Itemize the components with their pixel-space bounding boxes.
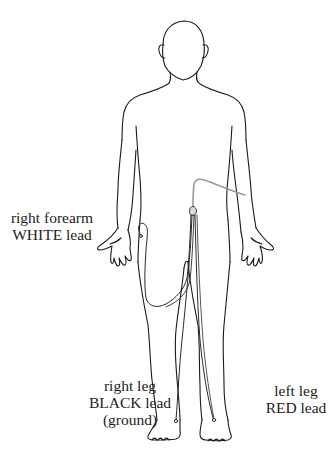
main-cable [193, 179, 245, 207]
right-arm-outer [117, 140, 122, 228]
right-arm-inner [128, 150, 136, 230]
neck-shoulder-left [196, 72, 246, 140]
label-right-leg-line3: (ground) [80, 411, 180, 428]
lead-wire-white-inner [166, 215, 194, 307]
label-left-leg-line1: left leg [258, 382, 334, 399]
label-left-leg-line2: RED lead [258, 399, 334, 416]
right-hand [98, 228, 132, 266]
left-leg-outer [223, 262, 230, 420]
label-right-leg-line1: right leg [80, 377, 180, 394]
right-palm-crease [110, 238, 121, 244]
left-arm-outer [246, 140, 256, 228]
left-hand [241, 228, 274, 266]
label-right-leg: right leg BLACK lead (ground) [80, 377, 180, 428]
cable-connector [190, 207, 197, 216]
diagram-canvas: right forearm WHITE lead right leg BLACK… [0, 0, 334, 452]
torso-right-side [136, 126, 141, 220]
crotch [184, 261, 188, 268]
label-right-forearm: right forearm WHITE lead [6, 209, 98, 243]
head-outline [163, 21, 205, 80]
label-right-forearm-line1: right forearm [6, 209, 98, 226]
electrode-right-forearm [140, 235, 143, 238]
neck-shoulder-right [122, 72, 171, 140]
label-right-forearm-line2: WHITE lead [6, 226, 98, 243]
label-left-leg: left leg RED lead [258, 382, 334, 416]
left-palm-crease [251, 238, 262, 244]
torso-left-side [227, 126, 233, 220]
electrode-left-leg [212, 418, 215, 421]
label-right-leg-line2: BLACK lead [80, 394, 180, 411]
hip-left [228, 220, 230, 262]
ear-left [202, 45, 208, 58]
lead-wire-white [138, 215, 191, 306]
left-foot [200, 420, 231, 441]
ear-right [159, 45, 165, 58]
